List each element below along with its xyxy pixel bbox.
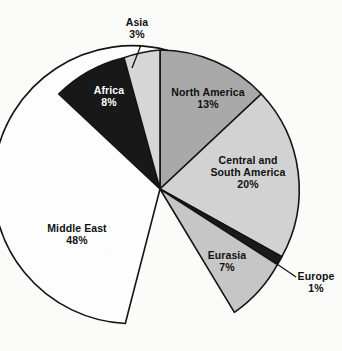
label-central-south-america-line1: Central and — [219, 154, 278, 166]
label-eurasia-percent: 7% — [196, 261, 258, 273]
label-middle-east-percent: 48% — [34, 234, 120, 246]
label-north-america-percent: 13% — [155, 98, 261, 110]
label-asia-name: Asia — [126, 16, 149, 28]
label-central-south-america: Central and South America 20% — [196, 154, 300, 191]
pie-chart: Asia 3% North America 13% Central and So… — [0, 0, 342, 351]
label-europe: Europe 1% — [290, 270, 342, 294]
label-africa-name: Africa — [94, 84, 124, 96]
label-middle-east-name: Middle East — [47, 222, 106, 234]
label-europe-percent: 1% — [290, 282, 342, 294]
label-africa: Africa 8% — [80, 84, 138, 108]
label-central-south-america-percent: 20% — [196, 178, 300, 190]
label-eurasia: Eurasia 7% — [196, 249, 258, 273]
label-europe-name: Europe — [298, 270, 335, 282]
label-asia: Asia 3% — [104, 16, 170, 40]
label-africa-percent: 8% — [80, 96, 138, 108]
label-middle-east: Middle East 48% — [34, 222, 120, 246]
label-north-america-name: North America — [171, 86, 244, 98]
label-asia-percent: 3% — [104, 28, 170, 40]
label-central-south-america-line2: South America — [196, 166, 300, 178]
label-eurasia-name: Eurasia — [208, 249, 247, 261]
label-north-america: North America 13% — [155, 86, 261, 110]
